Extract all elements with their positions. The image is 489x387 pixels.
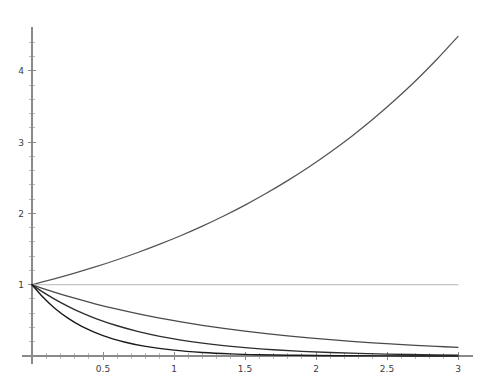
y-tick-label: 2 [18, 209, 24, 219]
curve-growing-exponential [32, 36, 458, 284]
series-paths [32, 36, 458, 356]
x-tick-label: 3 [455, 364, 461, 374]
x-tick-label: 1.5 [238, 364, 252, 374]
y-tick-label: 3 [18, 138, 24, 148]
chart-figure: 0.511.522.53 1234 [0, 0, 489, 387]
curve-slow-decay [32, 285, 458, 348]
x-tick-label: 2 [313, 364, 319, 374]
plot-area: 0.511.522.53 1234 [0, 0, 489, 387]
x-tick-labels: 0.511.522.53 [96, 364, 461, 374]
x-tick-label: 1 [171, 364, 177, 374]
x-tick-label: 0.5 [96, 364, 110, 374]
y-tick-label: 4 [18, 66, 24, 76]
y-tick-label: 1 [18, 280, 24, 290]
y-tick-labels: 1234 [18, 66, 24, 290]
curve-fast-decay [32, 285, 458, 356]
x-tick-label: 2.5 [380, 364, 394, 374]
